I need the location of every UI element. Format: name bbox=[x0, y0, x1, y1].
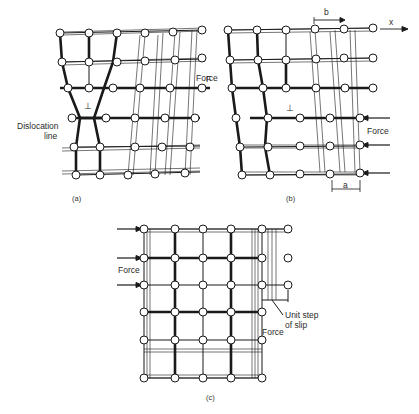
unit-step-label-2: of slip bbox=[285, 321, 307, 330]
force-label-c-right: Force bbox=[262, 328, 284, 337]
force-label-c-left: Force bbox=[118, 266, 140, 275]
lattice-c bbox=[0, 0, 419, 414]
unit-step-label-1: Unit step bbox=[285, 311, 319, 320]
caption-c: (c) bbox=[206, 393, 215, 402]
